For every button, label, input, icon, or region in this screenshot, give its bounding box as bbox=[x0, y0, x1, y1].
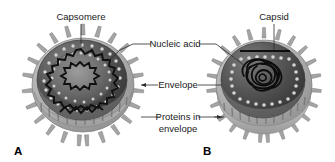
label-nucleic-acid: Nucleic acid bbox=[149, 38, 200, 49]
label-capsid: Capsid bbox=[259, 11, 289, 22]
label-capsomere: Capsomere bbox=[56, 11, 105, 22]
panel-a-inner-cavity bbox=[63, 62, 97, 90]
label-proteins-in-envelope-line2: envelope bbox=[159, 123, 198, 134]
virus-diagram-canvas: Capsomere Nucleic acid Envelope Proteins… bbox=[0, 0, 335, 162]
panel-letter-b: B bbox=[203, 145, 211, 157]
label-proteins-in-envelope-line1: Proteins in bbox=[156, 111, 201, 122]
label-envelope: Envelope bbox=[158, 79, 198, 90]
panel-letter-a: A bbox=[14, 145, 22, 157]
virus-structure-figure: Capsomere Nucleic acid Envelope Proteins… bbox=[0, 0, 335, 162]
